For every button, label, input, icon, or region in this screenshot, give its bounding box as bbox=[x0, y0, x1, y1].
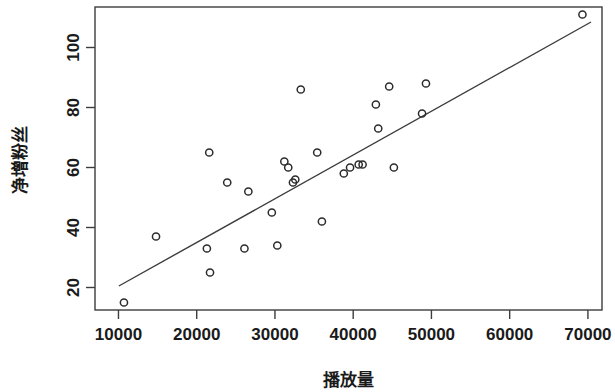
y-tick-label-2: 60 bbox=[64, 158, 83, 177]
x-tick-label-2: 30000 bbox=[251, 325, 298, 344]
x-tick-label-1: 20000 bbox=[173, 325, 220, 344]
scatter-plot-figure: 10000200003000040000500006000070000 2040… bbox=[0, 0, 615, 392]
x-tick-label-3: 40000 bbox=[330, 325, 377, 344]
y-tick-label-1: 40 bbox=[64, 218, 83, 237]
x-tick-label-6: 70000 bbox=[564, 325, 611, 344]
x-axis-title: 播放量 bbox=[323, 370, 374, 390]
y-tick-label-4: 100 bbox=[64, 33, 83, 61]
x-tick-label-5: 60000 bbox=[486, 325, 533, 344]
x-tick-label-4: 50000 bbox=[408, 325, 455, 344]
x-tick-label-0: 10000 bbox=[95, 325, 142, 344]
y-tick-label-0: 20 bbox=[64, 278, 83, 297]
y-axis-title: 净增粉丝 bbox=[10, 126, 30, 194]
y-tick-label-3: 80 bbox=[64, 98, 83, 117]
